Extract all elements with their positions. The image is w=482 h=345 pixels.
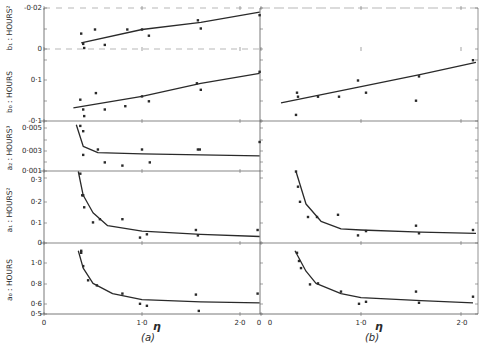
tick-a2-005: 0·005 [22,124,42,132]
x-tick-a-1: 1·0 [136,319,147,327]
data-point [199,148,201,150]
data-point [82,194,84,196]
data-point [148,100,150,102]
data-point [295,114,297,116]
data-point [198,310,200,312]
data-point [256,229,258,231]
x-tick-labels: 0 1·0 2·0 0 0 1·0 2·0 [42,319,468,327]
subplot-a2 [76,125,260,167]
data-point [121,218,123,220]
data-point [365,301,367,303]
data-point [79,99,81,101]
data-point [141,95,143,97]
data-point [148,35,150,37]
data-point [146,305,148,307]
data-point [83,206,85,208]
panel-b-caption: (b) [365,332,379,343]
data-point [104,44,106,46]
data-point [309,283,311,285]
data-point [94,28,96,30]
data-point [472,59,474,61]
data-point [415,290,417,292]
ylabel-a0: a₀ : HOURS [5,259,14,301]
data-point [317,282,319,284]
data-point [415,100,417,102]
data-point [80,252,82,254]
data-point [418,232,420,234]
data-point [82,43,84,45]
data-point [256,292,258,294]
data-point [82,265,84,267]
data-point [83,47,85,49]
data-point [82,130,84,132]
fit-curve [73,73,259,108]
data-point [418,302,420,304]
data-point [139,236,141,238]
subplot-a1 [295,170,476,236]
data-point [337,214,339,216]
data-point [124,105,126,107]
data-point [297,186,299,188]
tick-a0-05: 0·5 [31,310,42,318]
fit-curve [76,125,259,156]
x-tick-a-0: 0 [42,319,46,327]
fit-curve [81,12,259,43]
data-point [196,82,198,84]
data-point [317,96,319,98]
tick-a2-001: 0·001 [22,167,42,175]
data-point [258,14,260,16]
data-point [418,75,420,77]
data-point [149,161,151,163]
data-point [96,284,98,286]
data-point [197,19,199,21]
y-axis-labels: b₁ : HOURS² b₀ : HOURS a₂ : HOURS³ a₁ : … [5,5,14,300]
data-point [296,252,298,254]
fit-curve [78,251,259,303]
y-tick-labels: -0·02 0 0·1 -0·1 0·005 0·003 0·001 0·3 0… [22,4,43,318]
ylabel-a2: a₂ : HOURS³ [5,126,14,171]
ylabel-b1: b₁ : HOURS² [5,5,14,50]
data-point [200,27,202,29]
data-point [357,79,359,81]
subplot-b0 [281,59,476,116]
subplot-a0 [78,250,259,313]
data-point [97,148,99,150]
data-point [82,108,84,110]
figure: -0·02 0 0·1 -0·1 0·005 0·003 0·001 0·3 0… [0,0,482,345]
data-point [92,221,94,223]
data-point [365,92,367,94]
data-point [104,161,106,163]
data-point [82,154,84,156]
data-point [195,293,197,295]
tick-a1-03: 0·3 [31,176,42,184]
x-tick-a-2: 2·0 [234,319,245,327]
x-tick-edge-0: 0 [257,319,261,327]
data-point [121,292,123,294]
tick-b1-zero: 0 [38,45,42,53]
data-point [300,267,302,269]
tick-b1-top: -0·02 [24,4,42,12]
data-point [87,279,89,281]
data-point [299,201,301,203]
data-point [79,125,81,127]
x-tick-b-0: 0 [268,319,272,327]
x-tick-b-1: 1·0 [355,319,366,327]
fit-curve [78,172,259,237]
data-series [73,12,476,312]
fit-curve [295,251,473,303]
tick-a1-02: 0·2 [31,198,42,206]
data-point [358,303,360,305]
data-point [141,148,143,150]
tick-a1-01: 0·1 [31,219,42,227]
data-point [83,115,85,117]
data-point [141,28,143,30]
subplot-a1 [78,172,259,239]
data-point [316,216,318,218]
data-point [298,260,300,262]
data-point [472,296,474,298]
fit-curve [296,172,476,234]
data-point [296,92,298,94]
chart-canvas: -0·02 0 0·1 -0·1 0·005 0·003 0·001 0·3 0… [0,0,482,345]
x-tick-b-2: 2·0 [456,319,467,327]
fit-curve [281,62,476,103]
